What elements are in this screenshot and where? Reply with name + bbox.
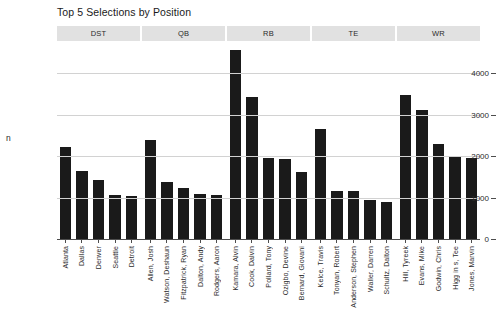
- x-tick: Seattle: [109, 240, 121, 335]
- x-tick: Dallas: [76, 240, 88, 335]
- facet-strip-qb: QB: [142, 26, 225, 41]
- y-axis-tick-mark: [491, 73, 496, 74]
- y-axis-tick-label: 0: [441, 235, 489, 244]
- y-axis-tick-mark: [491, 115, 496, 116]
- bar[interactable]: [126, 196, 138, 239]
- x-tick: Hill, Tyreek: [400, 240, 412, 335]
- gridline: [57, 115, 480, 116]
- x-tick-label: Schultz, Dalton: [383, 246, 390, 295]
- x-labels-wr: Hill, TyreekEvans, MikeGodwin, ChrisHigg…: [397, 240, 480, 335]
- bar[interactable]: [381, 202, 393, 239]
- x-tick: Cook, Dalvin: [246, 240, 258, 335]
- x-tick-label: Anderson, Stephen: [350, 246, 357, 308]
- bar[interactable]: [400, 95, 412, 239]
- chart-root: Top 5 Selections by Position DSTQBRBTEWR…: [0, 0, 498, 335]
- y-axis-tick-label: 3000: [441, 110, 489, 119]
- x-tick-mark: [200, 240, 201, 243]
- x-tick-label: Watson, Deshaun: [163, 246, 170, 303]
- x-tick: Fitzpatrick, Ryan: [178, 240, 190, 335]
- x-tick-label: Tonyan, Robert: [333, 246, 340, 295]
- bar[interactable]: [315, 129, 327, 239]
- x-tick-label: Dallas: [78, 246, 85, 266]
- x-tick: Dalton, Andy: [194, 240, 206, 335]
- x-tick-label: Atlanta: [62, 246, 69, 269]
- x-tick-mark: [268, 240, 269, 243]
- bar[interactable]: [145, 140, 157, 239]
- x-tick-mark: [166, 240, 167, 243]
- x-tick: Watson, Deshaun: [161, 240, 173, 335]
- x-tick-label: Jones, Marvin: [468, 246, 475, 291]
- x-tick-label: Allen, Josh: [147, 246, 154, 281]
- bar[interactable]: [60, 147, 72, 239]
- x-tick-mark: [216, 240, 217, 243]
- x-tick-mark: [65, 240, 66, 243]
- x-tick-label: Rodgers, Aaron: [213, 246, 220, 296]
- x-tick-label: Seattle: [112, 246, 119, 269]
- bar[interactable]: [364, 200, 376, 239]
- bar[interactable]: [161, 182, 173, 239]
- x-tick: Anderson, Stephen: [348, 240, 360, 335]
- x-tick-label: Dalton, Andy: [197, 246, 204, 287]
- facet-strip-dst: DST: [57, 26, 140, 41]
- x-tick: Atlanta: [60, 240, 72, 335]
- x-tick: Detroit: [126, 240, 138, 335]
- bar[interactable]: [93, 180, 105, 239]
- x-tick-label: Pollard, Tony: [265, 246, 272, 288]
- bar[interactable]: [296, 172, 308, 239]
- x-labels-qb: Allen, JoshWatson, DeshaunFitzpatrick, R…: [142, 240, 225, 335]
- x-tick-mark: [183, 240, 184, 243]
- facet-strip-rb: RB: [227, 26, 310, 41]
- x-tick-mark: [150, 240, 151, 243]
- facet-strip-label: QB: [178, 29, 189, 38]
- bar[interactable]: [109, 195, 121, 239]
- x-tick-mark: [438, 240, 439, 243]
- x-tick-label: Cook, Dalvin: [248, 246, 255, 287]
- x-tick: Kelce, Travis: [315, 240, 327, 335]
- x-tick-mark: [320, 240, 321, 243]
- x-tick-mark: [235, 240, 236, 243]
- x-tick-label: Kelce, Travis: [317, 246, 324, 287]
- y-axis-tick-label: 2000: [441, 152, 489, 161]
- facet-strip-wr: WR: [397, 26, 480, 41]
- x-tick-mark: [336, 240, 337, 243]
- facet-strip-label: TE: [349, 29, 359, 38]
- chart-title: Top 5 Selections by Position: [57, 6, 191, 18]
- facet-strip-label: WR: [432, 29, 445, 38]
- x-tick: Evans, Mike: [416, 240, 428, 335]
- x-tick-mark: [353, 240, 354, 243]
- bar[interactable]: [279, 159, 291, 239]
- x-tick-mark: [285, 240, 286, 243]
- x-tick: Rodgers, Aaron: [211, 240, 223, 335]
- facet-strip-row: DSTQBRBTEWR: [57, 26, 480, 41]
- x-tick-mark: [421, 240, 422, 243]
- x-tick-label: Kamara, Alvin: [232, 246, 239, 291]
- x-tick-label: Ozigbo, Devine: [282, 246, 289, 295]
- x-tick-label: Evans, Mike: [418, 246, 425, 285]
- x-tick-label: Fitzpatrick, Ryan: [180, 246, 187, 300]
- x-tick-mark: [251, 240, 252, 243]
- bar[interactable]: [246, 97, 258, 239]
- x-tick-mark: [98, 240, 99, 243]
- bar[interactable]: [230, 50, 242, 239]
- bar[interactable]: [416, 110, 428, 239]
- gridline: [57, 198, 480, 199]
- bar[interactable]: [76, 171, 88, 239]
- x-tick: Bernard, Giovani: [296, 240, 308, 335]
- x-labels-te: Kelce, TravisTonyan, RobertAnderson, Ste…: [312, 240, 395, 335]
- x-tick-label: Bernard, Giovani: [298, 246, 305, 300]
- facet-strip-label: RB: [263, 29, 274, 38]
- facet-strip-te: TE: [312, 26, 395, 41]
- bar[interactable]: [194, 194, 206, 239]
- x-tick-mark: [131, 240, 132, 243]
- x-tick-mark: [81, 240, 82, 243]
- bar[interactable]: [211, 195, 223, 239]
- x-tick: Denver: [93, 240, 105, 335]
- facet-strip-label: DST: [91, 29, 107, 38]
- x-tick: Ozigbo, Devine: [279, 240, 291, 335]
- x-tick: Tonyan, Robert: [331, 240, 343, 335]
- x-tick-label: Godwin, Chris: [435, 246, 442, 291]
- bar[interactable]: [178, 188, 190, 239]
- x-tick-label: Waller, Darren: [367, 246, 374, 292]
- y-axis-tick-mark: [491, 239, 496, 240]
- x-tick-label: Denver: [95, 246, 102, 269]
